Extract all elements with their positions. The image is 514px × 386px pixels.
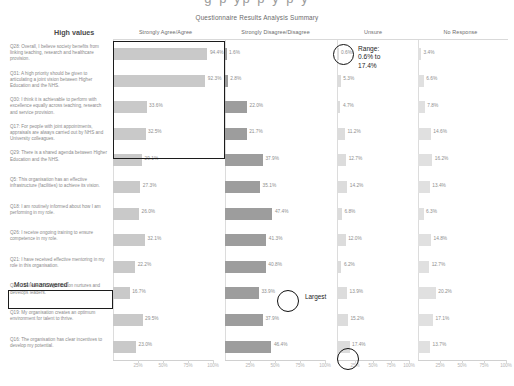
- column-header-unsure: Unsure: [333, 29, 413, 35]
- chart-row: Q19: My organisation creates an optimum …: [0, 307, 514, 337]
- bar-value-label: 33.9%: [261, 289, 275, 294]
- bar-value-label: 37.9%: [265, 316, 279, 321]
- bar-value-label: 20.2%: [438, 289, 452, 294]
- bar-value-label: 12.0%: [348, 236, 362, 241]
- bar-value-label: 6.2%: [344, 262, 355, 267]
- bar-value-label: 23.0%: [139, 342, 153, 347]
- bar-value-label: 6.6%: [426, 76, 437, 81]
- axis-tick-label: 75%: [295, 363, 304, 368]
- bar-value-label: 27.3%: [143, 183, 157, 188]
- high-values-box: [113, 41, 225, 159]
- bar-value-label: 37.9%: [265, 156, 279, 161]
- question-label: Q26: I receive ongoing training to ensur…: [10, 230, 110, 242]
- annotation-largest: Largest: [305, 293, 326, 301]
- bar-value-label: 35.1%: [263, 183, 277, 188]
- bar-disagree: [225, 314, 263, 326]
- bar-noresp: [418, 154, 432, 166]
- bar-value-label: 47.4%: [275, 209, 289, 214]
- bar-unsure: [337, 261, 341, 273]
- chart-row: Q5: This organisation has an effective i…: [0, 174, 514, 204]
- bar-disagree: [225, 234, 266, 246]
- bar-noresp: [418, 101, 425, 113]
- bar-value-label: 2.8%: [230, 76, 241, 81]
- question-label: Q31: A high priority should be given to …: [10, 71, 110, 90]
- bar-noresp: [418, 261, 429, 273]
- bar-value-label: 46.4%: [274, 342, 288, 347]
- bar-unsure: [337, 234, 346, 246]
- bar-disagree: [225, 261, 266, 273]
- bar-value-label: 1.6%: [229, 50, 240, 55]
- bar-value-label: 26.0%: [142, 209, 156, 214]
- chart-row: Q30: I think it is achievable to perform…: [0, 94, 514, 124]
- bar-value-label: 14.6%: [433, 129, 447, 134]
- chart-row: Q26: I receive ongoing training to ensur…: [0, 227, 514, 257]
- high-values-label: High values: [54, 28, 94, 37]
- bar-value-label: 13.7%: [433, 342, 447, 347]
- bar-disagree: [225, 75, 228, 87]
- bar-value-label: 17.1%: [436, 316, 450, 321]
- bar-noresp: [418, 128, 431, 140]
- bar-value-label: 12.7%: [349, 156, 363, 161]
- largest-circle: [277, 290, 299, 312]
- range-circle: [333, 44, 354, 65]
- bar-noresp: [418, 181, 430, 193]
- chart-row: Q21: I have received effective mentoring…: [0, 254, 514, 284]
- axis-tick-label: 50%: [368, 363, 377, 368]
- question-label: Q16: The organisation has clear incentiv…: [10, 337, 110, 349]
- bar-noresp: [418, 75, 424, 87]
- column-header-disagree: Strongly Disagree/Disagree: [218, 29, 333, 35]
- bar-unsure: [337, 287, 347, 299]
- page-title: Questionnaire Results Analysis Summary: [0, 14, 514, 21]
- bar-noresp: [418, 234, 431, 246]
- bar-agree: [113, 314, 143, 326]
- annotation-range: Range: 0.6% to 17.4%: [358, 45, 380, 70]
- bar-value-label: 16.7%: [132, 289, 146, 294]
- chart-row: Q17: For people with joint appointments,…: [0, 121, 514, 151]
- bar-value-label: 22.0%: [250, 103, 264, 108]
- bar-agree: [113, 287, 130, 299]
- axis-tick-label: 75%: [386, 363, 395, 368]
- chart-row: Q31: A high priority should be given to …: [0, 68, 514, 98]
- bar-agree: [113, 208, 139, 220]
- question-label: Q29: There is a shared agenda between Hi…: [10, 150, 110, 162]
- axis-tick-label: 25%: [133, 363, 142, 368]
- bar-value-label: 7.8%: [427, 103, 438, 108]
- bar-value-label: 16.2%: [435, 156, 449, 161]
- bar-value-label: 13.4%: [432, 183, 446, 188]
- question-label: Q19: My organisation creates an optimum …: [10, 310, 110, 322]
- bar-disagree: [225, 128, 247, 140]
- bar-disagree: [225, 341, 271, 353]
- bar-value-label: 13.9%: [350, 289, 364, 294]
- column-header-noresponse: No Response: [413, 29, 508, 35]
- bar-value-label: 4.7%: [343, 103, 354, 108]
- bar-value-label: 22.2%: [138, 262, 152, 267]
- question-label: Q17: For people with joint appointments,…: [10, 124, 110, 143]
- bar-value-label: 14.8%: [434, 236, 448, 241]
- bar-disagree: [225, 154, 263, 166]
- bar-value-label: 12.7%: [432, 262, 446, 267]
- column-header-agree: Strongly Agree/Agree: [113, 29, 218, 35]
- bar-value-label: 41.3%: [269, 236, 283, 241]
- bar-unsure: [337, 154, 346, 166]
- bar-unsure: [337, 181, 347, 193]
- axis-tick-label: 100%: [403, 363, 415, 368]
- bar-noresp: [418, 48, 421, 60]
- bar-noresp: [418, 341, 430, 353]
- axis-tick-label: 50%: [270, 363, 279, 368]
- axis-tick-label: 100%: [500, 363, 512, 368]
- annotation-most-unanswered: Most 'unanswered': [14, 281, 69, 289]
- bar-value-label: 21.7%: [249, 129, 263, 134]
- question-label: Q21: I have received effective mentoring…: [10, 257, 110, 269]
- chart-row: Q29: There is a shared agenda between Hi…: [0, 147, 514, 177]
- bar-value-label: 32.1%: [148, 236, 162, 241]
- question-label: Q28: Overall, I believe society benefits…: [10, 44, 110, 63]
- bar-unsure: [337, 128, 345, 140]
- bar-disagree: [225, 287, 259, 299]
- question-label: Q5: This organisation has an effective i…: [10, 177, 110, 189]
- bar-value-label: 3.4%: [423, 50, 434, 55]
- axis-tick-label: 25%: [435, 363, 444, 368]
- bar-disagree: [225, 181, 260, 193]
- bar-agree: [113, 341, 136, 353]
- axis-tick-label: 75%: [183, 363, 192, 368]
- max-unsure-circle: [337, 348, 359, 370]
